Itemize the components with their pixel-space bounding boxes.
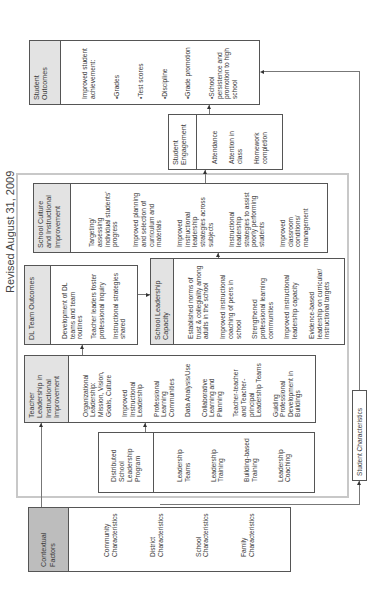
list-item: •Discipline [161, 46, 169, 99]
list-item: •Grade promotion [184, 46, 192, 99]
list-item: •Grades [113, 46, 121, 99]
list-item: Data Analysis/Use [184, 361, 192, 417]
contextual-factors-header: Contextual Factors [29, 508, 69, 571]
list-item: Improved instructional leadership strate… [176, 189, 214, 247]
school-leadership-capacity-list: Established norms of trust & collegialit… [174, 259, 344, 344]
school-culture-box: School Culture and Instructional Improve… [33, 183, 328, 253]
arrow-icon [203, 170, 207, 174]
list-item: Family Characteristics [240, 513, 255, 557]
list-item: Teacher leaders foster professional inqu… [90, 271, 105, 339]
list-item: Improved Instructional Leadership [121, 361, 144, 417]
student-characteristics-box: Student Characteristics [352, 390, 367, 481]
list-item: Targeting/ assessing individual students… [88, 189, 118, 247]
school-leadership-capacity-header: School Leadership Capacity [151, 259, 174, 344]
connector-student-char-to-outcomes-2 [262, 71, 360, 72]
list-item: Strengthened professional learning commu… [251, 264, 274, 339]
arrow-icon [216, 253, 220, 257]
list-item: Improved planning and selection of curri… [132, 189, 162, 247]
student-engagement-list: Attendance Attention in class Homework c… [197, 115, 282, 169]
arrow-icon [260, 70, 264, 74]
list-item: District Characteristics [149, 513, 164, 557]
student-outcomes-header: Student Outcomes [30, 41, 61, 104]
dl-team-outcomes-box: DL Team Outcomes Development of DL teams… [24, 265, 138, 345]
dl-program-box: Distributed School Leadership Program Le… [98, 432, 315, 493]
list-item: Leadership Training [210, 438, 225, 482]
revision-title: Revised August 31, 2009 [4, 171, 16, 293]
student-outcomes-box: Student Outcomes Improved student achiev… [29, 40, 260, 105]
dl-program-list: Leadership Teams Leadership Training Bui… [154, 433, 314, 492]
connector-contextual-to-teacher [41, 423, 42, 507]
list-item: Collaborative Learning and Planning [201, 361, 224, 417]
list-item: Established norms of trust & collegialit… [187, 264, 210, 339]
arrow-icon [207, 105, 211, 109]
list-item: •Test scores [137, 46, 145, 99]
school-culture-list: Targeting/ assessing individual students… [71, 184, 327, 252]
list-item: Professional Learning Communities [153, 361, 176, 417]
contextual-factors-box: Contextual Factors Community Characteris… [28, 507, 291, 572]
list-item: Organizational Leadership: Mission, Visi… [82, 361, 112, 417]
student-outcomes-list: Improved student achievement: •Grades •T… [61, 41, 259, 104]
arrow-icon [357, 481, 361, 485]
connector-contextual-to-student-char [160, 504, 360, 505]
arrow-icon [143, 423, 147, 427]
student-engagement-header: Student Engagement [169, 115, 197, 169]
list-item: Instructional leadership strategies to a… [228, 189, 266, 247]
arrow-icon [39, 423, 43, 427]
school-leadership-capacity-box: School Leadership Capacity Established n… [150, 258, 345, 345]
contextual-factors-list: Community Characteristics District Chara… [69, 508, 290, 571]
list-item: Teacher-teacher and Teacher-principal Le… [232, 361, 262, 417]
teacher-leadership-header: Teacher Leadership in Instructional Impr… [25, 356, 69, 422]
list-item: Improved classroom conditions/ managemen… [279, 189, 309, 247]
list-item: Homework completion [253, 120, 268, 164]
list-item: Building-based Training [243, 438, 258, 482]
school-culture-header: School Culture and Instructional Improve… [34, 184, 71, 252]
arrow-icon [80, 345, 84, 349]
list-item: Guiding Professional Development in Buil… [272, 361, 302, 417]
student-engagement-box: Student Engagement Attendance Attention … [168, 114, 283, 170]
list-item: Instructional strategies shared [112, 271, 127, 339]
dl-program-header: Distributed School Leadership Program [99, 433, 154, 492]
list-item: Community Characteristics [103, 513, 118, 557]
arrow-icon [146, 293, 150, 297]
list-item: Improved instructional coaching of peers… [219, 264, 242, 339]
logic-model-diagram: Revised August 31, 2009 Student Outcomes… [0, 0, 385, 601]
connector-student-char-to-outcomes [359, 72, 360, 390]
list-item: •School persistence and promotion to hig… [208, 46, 238, 99]
list-item: School Characteristics [195, 513, 210, 557]
teacher-leadership-list: Organizational Leadership: Mission, Visi… [69, 356, 315, 422]
list-item: Development of DL teams and team routine… [61, 271, 84, 339]
teacher-leadership-box: Teacher Leadership in Instructional Impr… [24, 355, 316, 423]
list-item: Attendance [211, 120, 219, 164]
dl-team-outcomes-header: DL Team Outcomes [25, 266, 51, 344]
list-item: Leadership Teams [176, 438, 191, 482]
list-item: Leadership Coaching [277, 438, 292, 482]
list-item: Attention in class [228, 120, 243, 164]
list-item: Improved instructional leadership capaci… [283, 264, 298, 339]
list-item: Evidence-based leadership on curricular/… [308, 264, 331, 339]
list-item: Improved student achievement: [81, 46, 96, 99]
dl-team-outcomes-list: Development of DL teams and team routine… [51, 266, 137, 344]
